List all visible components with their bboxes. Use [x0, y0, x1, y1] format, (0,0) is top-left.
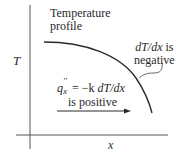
flux-label: q''x = −k dT/dx is positive: [57, 80, 125, 109]
slope-expression: dT/dx: [135, 40, 162, 54]
flux-equation-text: = −k: [69, 81, 98, 95]
flux-derivative: dT/dx: [98, 81, 125, 95]
flux-subscript: x: [63, 85, 67, 98]
temperature-profile-diagram: Temperature profile T dT/dx is negative …: [0, 0, 187, 159]
profile-label: Temperature profile: [50, 7, 110, 33]
flux-label-line2: is positive: [57, 96, 125, 109]
slope-label: dT/dx is negative: [134, 41, 175, 67]
slope-label-line2: negative: [134, 54, 175, 67]
flux-equation: q''x = −k dT/dx: [57, 80, 125, 95]
y-axis-label: T: [13, 55, 20, 67]
slope-suffix: is: [162, 40, 173, 54]
x-axis-label: x: [108, 139, 113, 151]
flux-scripts: ''x: [63, 80, 69, 92]
profile-label-line2: profile: [50, 20, 110, 33]
heat-flux-arrow-head: [124, 109, 131, 114]
